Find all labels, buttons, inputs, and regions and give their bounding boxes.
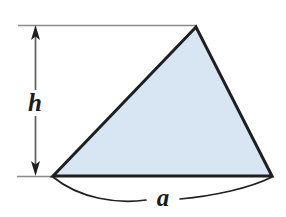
base-dimension-arc-left <box>53 177 146 201</box>
triangle-shape <box>53 27 272 176</box>
height-label: h <box>22 90 48 115</box>
base-label: a <box>148 185 178 210</box>
figure-container: h a <box>0 0 286 217</box>
base-dimension-arc-right <box>180 177 272 199</box>
